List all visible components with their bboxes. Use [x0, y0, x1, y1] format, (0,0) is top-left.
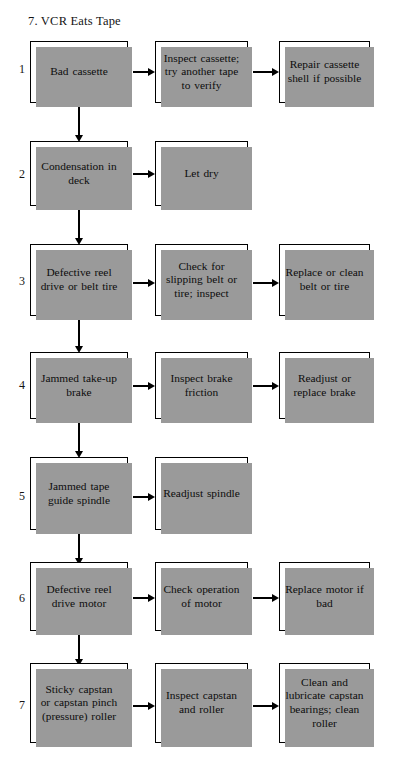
node-label: Replace or clean belt or tire [283, 266, 367, 293]
node-label: Condensation in deck [38, 160, 119, 187]
arrow-cause-to-check-5 [133, 492, 155, 502]
row-number-3: 3 [14, 274, 30, 289]
node-label: Replace motor if bad [282, 583, 367, 610]
node-label: Defective reel drive or belt tire [38, 266, 121, 293]
node-remedy-1[interactable]: Repair cassette shell if possible [279, 41, 370, 103]
node-check-4[interactable]: Inspect brake friction [155, 352, 248, 419]
node-remedy-6[interactable]: Replace motor if bad [279, 562, 370, 631]
arrow-cause-to-check-6 [133, 593, 155, 603]
node-cause-4[interactable]: Jammed take-up brake [30, 352, 128, 419]
node-remedy-4[interactable]: Readjust or replace brake [279, 352, 370, 419]
node-label: Let dry [181, 167, 221, 181]
node-cause-7[interactable]: Sticky capstan or capstan pinch (pressur… [30, 663, 128, 743]
node-check-7[interactable]: Inspect capstan and roller [155, 663, 248, 743]
row-number-1: 1 [14, 62, 30, 77]
node-check-1[interactable]: Inspect cassette; try another tape to ve… [155, 41, 248, 103]
arrow-cause-to-check-7 [133, 701, 155, 711]
arrow-row2-to-row3 [74, 206, 84, 246]
node-remedy-3[interactable]: Replace or clean belt or tire [279, 244, 370, 316]
node-label: Inspect brake friction [167, 372, 235, 399]
arrow-cause-to-check-3 [133, 278, 155, 288]
node-label: Repair cassette shell if possible [285, 58, 365, 85]
node-check-6[interactable]: Check operation of motor [155, 562, 248, 631]
node-label: Check for slipping belt or tire; inspect [163, 260, 240, 301]
node-label: Readjust spindle [160, 487, 243, 501]
node-label: Jammed take-up brake [38, 372, 120, 399]
node-label: Inspect cassette; try another tape to ve… [161, 52, 242, 93]
node-label: Sticky capstan or capstan pinch (pressur… [38, 683, 121, 724]
arrow-row6-to-row7 [74, 631, 84, 667]
node-label: Jammed tape guide spindle [45, 480, 113, 507]
page-title: 7. VCR Eats Tape [28, 14, 121, 29]
arrow-check-to-remedy-1 [253, 67, 279, 77]
node-check-3[interactable]: Check for slipping belt or tire; inspect [155, 244, 248, 316]
arrow-row4-to-row5 [74, 419, 84, 459]
node-remedy-7[interactable]: Clean and lubricate capstan bearings; cl… [279, 663, 370, 743]
node-label: Bad cassette [47, 65, 111, 79]
node-check-5[interactable]: Readjust spindle [155, 457, 248, 530]
arrow-check-to-remedy-6 [253, 593, 279, 603]
node-label: Inspect capstan and roller [163, 689, 240, 716]
node-label: Check operation of motor [161, 583, 243, 610]
arrow-cause-to-check-1 [133, 67, 155, 77]
arrow-row3-to-row4 [74, 316, 84, 354]
row-number-7: 7 [14, 698, 30, 713]
arrow-row5-to-row6 [74, 530, 84, 566]
node-cause-2[interactable]: Condensation in deck [30, 141, 128, 206]
row-number-2: 2 [14, 167, 30, 182]
arrow-cause-to-check-4 [133, 381, 155, 391]
node-cause-3[interactable]: Defective reel drive or belt tire [30, 244, 128, 316]
node-cause-5[interactable]: Jammed tape guide spindle [30, 457, 128, 530]
row-number-6: 6 [14, 591, 30, 606]
arrow-check-to-remedy-4 [253, 381, 279, 391]
arrow-cause-to-check-2 [133, 169, 155, 179]
node-label: Defective reel drive motor [43, 583, 114, 610]
node-label: Readjust or replace brake [290, 372, 358, 399]
arrow-check-to-remedy-7 [253, 701, 279, 711]
row-number-5: 5 [14, 489, 30, 504]
arrow-check-to-remedy-3 [253, 278, 279, 288]
node-label: Clean and lubricate capstan bearings; cl… [283, 676, 367, 730]
arrow-row1-to-row2 [74, 103, 84, 143]
node-check-2[interactable]: Let dry [155, 141, 248, 206]
node-cause-6[interactable]: Defective reel drive motor [30, 562, 128, 631]
row-number-4: 4 [14, 378, 30, 393]
node-cause-1[interactable]: Bad cassette [30, 41, 128, 103]
flowchart-canvas: 7. VCR Eats Tape 1 Bad cassette Inspect … [0, 0, 393, 776]
